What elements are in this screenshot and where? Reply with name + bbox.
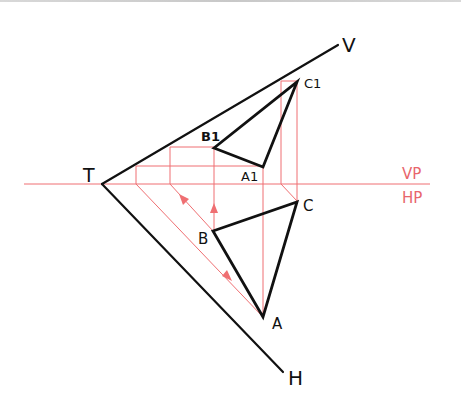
label-a: A bbox=[272, 315, 283, 333]
label-v: V bbox=[342, 33, 356, 57]
projector-diagonal bbox=[136, 184, 263, 317]
label-a1: A1 bbox=[241, 169, 258, 184]
vertical-trace bbox=[102, 45, 338, 184]
arrow-up-icon bbox=[210, 203, 218, 213]
label-b1: B1 bbox=[201, 129, 220, 144]
projector-diagonal bbox=[281, 184, 297, 201]
horizontal-trace bbox=[102, 184, 283, 372]
projector-diagonal bbox=[170, 184, 213, 231]
label-c1: C1 bbox=[304, 76, 321, 91]
label-h: H bbox=[288, 366, 303, 390]
label-c: C bbox=[303, 197, 313, 215]
label-hp: HP bbox=[402, 189, 422, 207]
label-vp: VP bbox=[402, 165, 421, 183]
label-t: T bbox=[82, 164, 95, 186]
construction-lines bbox=[24, 81, 430, 317]
label-b: B bbox=[198, 230, 208, 248]
orthographic-diagram: T V H C1 B1 A1 C B A VP HP bbox=[0, 0, 461, 403]
plan-triangle bbox=[213, 202, 297, 317]
